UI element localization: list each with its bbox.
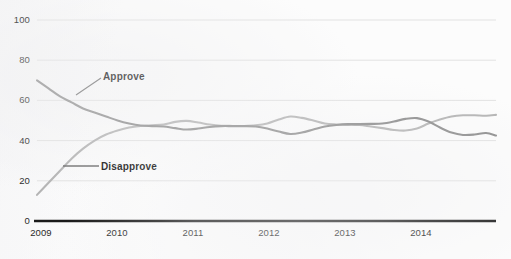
x-axis-tick-2010: 2010 [97,228,137,238]
chart-container: 100 80 60 40 20 0 2009 2010 2011 2012 20… [0,0,511,259]
y-axis-tick-40: 40 [4,136,30,146]
y-axis-tick-60: 60 [4,95,30,105]
x-axis-tick-2011: 2011 [173,228,213,238]
series-label-approve: Approve [103,71,145,82]
series-line-approve [37,80,496,135]
plot-area: 100 80 60 40 20 0 2009 2010 2011 2012 20… [0,0,511,259]
y-axis-tick-20: 20 [4,176,30,186]
series-line-disapprove [37,115,496,195]
series-label-disapprove: Disapprove [101,161,157,172]
x-axis-tick-2012: 2012 [249,228,289,238]
x-axis-tick-2014: 2014 [401,228,441,238]
y-axis-tick-100: 100 [4,15,30,25]
x-axis-tick-2009: 2009 [21,228,61,238]
chart-canvas [0,0,511,259]
leader-line-approve [76,78,101,95]
x-axis-tick-2013: 2013 [325,228,365,238]
y-axis-tick-0: 0 [4,216,30,226]
y-axis-tick-80: 80 [4,55,30,65]
